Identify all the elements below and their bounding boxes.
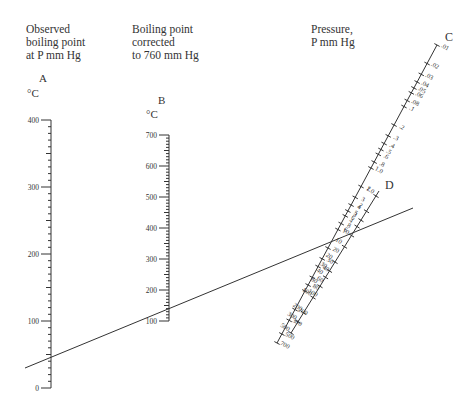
scale-b-tick-label: 600	[146, 162, 158, 171]
scale-b-tick-label: 100	[146, 317, 158, 326]
tick-label: 40	[315, 266, 324, 275]
tick-label: 1.0	[365, 185, 376, 195]
scale-d-labels: 1.023461020304060100200300500	[280, 185, 376, 333]
scale-a-tick-label: 0	[35, 384, 39, 393]
scale-b-ticks	[159, 135, 169, 321]
tick-label: 700	[279, 339, 291, 350]
scale-a-tick-label: 400	[28, 116, 40, 125]
scale-b-tick-label: 300	[146, 255, 158, 264]
scale-b-tick-label: 700	[146, 131, 158, 140]
scale-b-labels: 700600500400300200100	[146, 131, 158, 326]
tick-label: .2	[398, 122, 406, 130]
scale-a-tick-label: 200	[28, 250, 40, 259]
scale-a-tick-label: 300	[28, 183, 40, 192]
scale-a-ticks	[41, 120, 51, 388]
scale-b-tick-label: 400	[146, 224, 158, 233]
scale-b-tick-label: 500	[146, 193, 158, 202]
nomograph-canvas: 4003002001000 700600500400300200100 .01.…	[0, 0, 471, 410]
tick-label: 500	[284, 330, 296, 341]
scale-a-labels: 4003002001000	[28, 116, 40, 393]
scale-b-tick-label: 200	[146, 286, 158, 295]
tick-label: .01	[440, 42, 450, 52]
tick-label: .02	[430, 60, 440, 70]
tick-label: .1	[408, 104, 416, 112]
scale-a-tick-label: 100	[28, 317, 40, 326]
tick-label: .6	[383, 152, 391, 161]
scale-c-axis	[277, 45, 437, 343]
tick-label: 10	[334, 236, 343, 245]
tick-label: .3	[393, 133, 401, 141]
alignment-line	[25, 208, 413, 368]
scale-c-labels: .01.02.03.04.05.06.08.1.2.3.4.5.6.81.023…	[279, 42, 450, 350]
